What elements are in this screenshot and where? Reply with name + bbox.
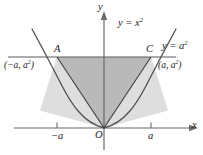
line-equation-exponent: 2 — [184, 39, 187, 46]
x-tick-label-neg-a: −a — [51, 131, 63, 142]
point-a-coord-suffix: ) — [31, 60, 34, 70]
point-a-coordinates-label: (−a, a2) — [4, 61, 34, 71]
point-c-coordinates-label: (a, a2) — [158, 61, 182, 71]
y-axis-label: y — [98, 2, 103, 13]
line-equation-text: y = a — [162, 40, 184, 51]
point-c-coord-prefix: (a, a — [158, 60, 175, 70]
point-a-coord-prefix: (−a, a — [4, 60, 28, 70]
point-a-label: A — [54, 44, 60, 55]
x-axis-label: x — [192, 120, 197, 131]
parabola-equation-exponent: 2 — [140, 16, 143, 23]
parabola-equation-text: y = x — [118, 17, 140, 28]
line-equation-label: y = a2 — [162, 41, 188, 52]
figure-canvas: y x O A C y = x2 y = a2 (−a, a2) (a, a2)… — [0, 0, 203, 155]
x-tick-label-pos-a: a — [148, 131, 153, 142]
point-c-coord-suffix: ) — [178, 60, 181, 70]
origin-label: O — [95, 130, 103, 141]
parabola-equation-label: y = x2 — [118, 18, 143, 29]
point-c-label: C — [146, 44, 153, 55]
